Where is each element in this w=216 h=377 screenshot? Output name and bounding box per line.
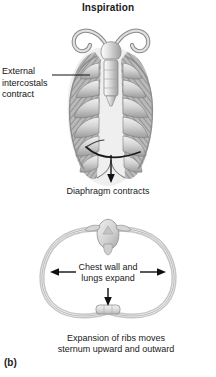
down-arrow-diaphragm: [107, 155, 115, 183]
caption-diaphragm-contracts: Diaphragm contracts: [0, 186, 216, 197]
label-external-intercostals: External intercostals contract: [2, 66, 54, 101]
caption-line-2: sternum upward and outward: [26, 344, 206, 355]
label-line-3: contract: [2, 89, 54, 101]
caption-expansion-of-ribs: Expansion of ribs moves sternum upward a…: [26, 333, 206, 355]
caption-line-1: Expansion of ribs moves: [26, 333, 206, 344]
label-line-1: External: [2, 66, 54, 78]
page-title: Inspiration: [0, 2, 216, 13]
sternum-cross-section: [96, 305, 120, 314]
inspiration-figure: Inspiration: [0, 0, 216, 377]
anterior-ribcage: [60, 31, 162, 190]
caption-chest-wall-expands: Chest wall and lungs expand: [58, 262, 158, 284]
panel-letter: (b): [4, 357, 17, 368]
caption-line-2: lungs expand: [58, 273, 158, 284]
vertebra: [85, 219, 131, 255]
caption-line-1: Chest wall and: [58, 262, 158, 273]
label-line-2: intercostals: [2, 78, 54, 90]
down-arrow-sternum: [104, 288, 112, 306]
